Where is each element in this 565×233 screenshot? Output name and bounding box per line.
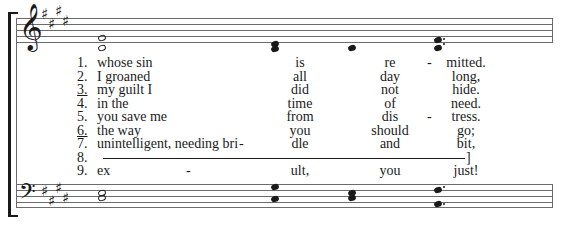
augmentation-dot — [443, 38, 445, 40]
verse-number: 1. — [77, 56, 88, 70]
sharp-icon: ♯ — [62, 191, 69, 206]
verse-text: unintelligent, needing bri — [97, 137, 238, 151]
verse-number: 5. — [77, 110, 88, 124]
quarter-note — [270, 45, 280, 53]
bracket-top-hook — [8, 12, 18, 14]
augmentation-dot — [443, 186, 445, 188]
lyric-syllable: ult, — [291, 164, 309, 178]
lyric-syllable: you — [380, 164, 401, 178]
lyric-syllable: bit, — [457, 137, 475, 151]
lyric-syllable: and — [380, 137, 400, 151]
augmentation-dot — [443, 203, 445, 205]
verse-text: you save me — [97, 110, 167, 124]
lyric-hyphen: - — [186, 164, 191, 178]
dotted-quarter-note — [433, 44, 443, 52]
verse-row: 5. you save me from dis - tress. — [0, 110, 565, 124]
bracket-bottom-hook — [8, 215, 18, 217]
verse-row: 1. whose sin is re - mitted. — [0, 56, 565, 70]
verse-number: 9. — [77, 164, 88, 178]
verse-number: 7. — [77, 137, 88, 151]
lyric-syllable: dle — [291, 137, 308, 151]
sharp-icon: ♯ — [62, 14, 69, 29]
treble-clef-icon: 𝄞 — [19, 6, 43, 46]
verse-text: whose sin — [97, 56, 153, 70]
lyric-extender-line — [103, 158, 465, 159]
bass-clef-icon: 𝄢 — [19, 181, 36, 207]
verse-text: ex — [97, 164, 110, 178]
half-note — [97, 44, 107, 52]
bass-staff — [16, 184, 553, 208]
lyric-syllable: just! — [454, 164, 479, 178]
verse-text: my guilt I — [97, 83, 152, 97]
verse-row: 9. ex - ult, you just! — [0, 164, 565, 178]
augmentation-dot — [443, 43, 445, 45]
lyric-hyphen: - — [427, 110, 432, 124]
verse-row: 7. unintelligent, needing bri - dle and … — [0, 137, 565, 151]
lyric-hyphen: - — [239, 137, 244, 151]
lyric-hyphen: - — [427, 56, 432, 70]
treble-staff — [16, 18, 553, 43]
quarter-note — [347, 44, 357, 52]
